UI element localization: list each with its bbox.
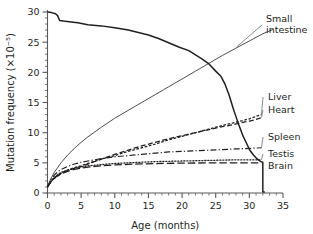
curve-testis — [48, 160, 262, 187]
leader-spleen — [261, 137, 263, 148]
series-label-testis: Testis — [267, 148, 294, 159]
y-axis-tick-labels: 051015202530 — [27, 6, 39, 198]
y-tick-label: 20 — [27, 67, 39, 78]
curve-survival — [48, 12, 265, 192]
x-tick-label: 0 — [44, 200, 50, 211]
x-axis-tick-labels: 05101520253035 — [44, 200, 289, 211]
y-axis-title: Mutation frequency (×10⁻⁵) — [5, 33, 16, 172]
x-tick-label: 35 — [277, 200, 289, 211]
series-label-small-intestine: Smallintestine — [266, 13, 308, 35]
series-label-brain: Brain — [268, 160, 293, 171]
leader-testis — [261, 154, 263, 160]
x-tick-label: 10 — [109, 200, 121, 211]
x-tick-label: 30 — [243, 200, 255, 211]
series-label-liver: Liver — [268, 91, 291, 102]
series-label-heart: Heart — [268, 104, 295, 115]
y-tick-label: 30 — [27, 6, 39, 17]
curve-heart — [48, 118, 262, 187]
x-tick-label: 25 — [210, 200, 222, 211]
mutation-frequency-chart: 05101520253035 051015202530 Smallintesti… — [0, 0, 313, 234]
x-tick-label: 20 — [176, 200, 188, 211]
y-tick-label: 0 — [33, 187, 39, 198]
series-label-spleen: Spleen — [268, 131, 300, 142]
x-tick-label: 5 — [78, 200, 84, 211]
series-labels: SmallintestineLiverHeartSpleenTestisBrai… — [266, 13, 308, 171]
x-tick-label: 15 — [142, 200, 154, 211]
x-axis-title: Age (months) — [131, 220, 199, 231]
y-axis-ticks — [43, 12, 48, 193]
y-tick-label: 25 — [27, 37, 39, 48]
x-axis-ticks — [48, 193, 284, 198]
data-curves — [48, 12, 273, 192]
chart-svg: 05101520253035 051015202530 Smallintesti… — [0, 0, 313, 234]
y-tick-label: 5 — [33, 157, 39, 168]
leader-lines — [237, 25, 263, 160]
y-tick-label: 15 — [27, 97, 39, 108]
y-tick-label: 10 — [27, 127, 39, 138]
